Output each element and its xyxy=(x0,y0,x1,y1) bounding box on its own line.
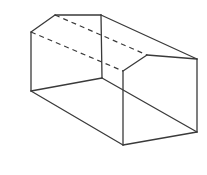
solid-edge-front_bottom_left-front_bottom_right xyxy=(123,132,197,145)
solid-edge-back_bottom_left-front_bottom_left xyxy=(31,91,123,145)
solid-edge-back_top_right-front_top_right xyxy=(101,15,197,59)
solid-edge-back_bottom_left-back_bottom_right xyxy=(31,78,102,91)
hidden-edge-back_mid_left-front_top_left xyxy=(31,32,123,71)
solid-edge-back_bottom_right-front_bottom_right xyxy=(102,78,197,132)
solid-edges xyxy=(31,15,197,145)
solid-edge-back_top_right-back_bottom_right xyxy=(101,15,102,78)
solid-edge-back_mid_left-back_peak_left xyxy=(31,15,55,32)
hidden-edges xyxy=(31,15,147,71)
solid-edge-front_top_left-front_peak xyxy=(123,55,147,71)
prism-diagram xyxy=(0,0,207,175)
